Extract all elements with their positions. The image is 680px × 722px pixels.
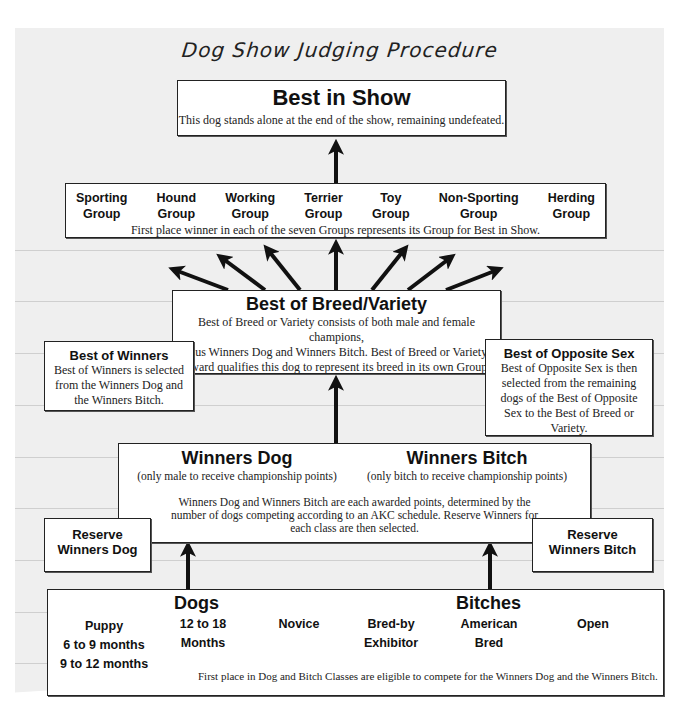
group-toy: ToyGroup [372, 190, 410, 222]
reserve-winners-bitch-box: Reserve Winners Bitch [532, 518, 653, 572]
best-of-opposite-sex-heading: Best of Opposite Sex [486, 346, 652, 361]
group-hound: HoundGroup [157, 190, 197, 222]
best-of-winners-line: the Winners Bitch. [45, 393, 193, 408]
diagram-title: Dog Show Judging Procedure [0, 38, 680, 62]
group-non-sporting: Non-SportingGroup [439, 190, 519, 222]
class-novice: Novice [264, 615, 334, 634]
winners-dog-section: Winners Dog (only male to receive champi… [127, 448, 347, 484]
class-open: Open [563, 615, 623, 634]
bitches-heading: Bitches [456, 593, 521, 614]
groups-box: SportingGroup HoundGroup WorkingGroup Te… [65, 183, 606, 238]
winners-dog-note: (only male to receive championship point… [127, 469, 347, 484]
best-of-winners-line: Best of Winners is selected [45, 363, 193, 378]
best-of-winners-line: from the Winners Dog and [45, 378, 193, 393]
bos-line: Best of Opposite Sex is then [486, 361, 652, 376]
reserve-dog-line: Winners Dog [45, 542, 150, 557]
reserve-dog-line: Reserve [45, 527, 150, 542]
best-of-winners-heading: Best of Winners [45, 348, 193, 363]
best-of-breed-line: Award qualifies this dog to represent it… [173, 360, 500, 375]
reserve-winners-dog-box: Reserve Winners Dog [44, 518, 151, 572]
group-herding: HerdingGroup [548, 190, 595, 222]
group-working: WorkingGroup [225, 190, 275, 222]
class-12-to-18-months: 12 to 18Months [178, 615, 228, 653]
best-of-breed-heading: Best of Breed/Variety [173, 294, 500, 315]
winners-bitch-heading: Winners Bitch [351, 448, 583, 469]
dogs-heading: Dogs [174, 593, 219, 614]
group-sporting: SportingGroup [76, 190, 127, 222]
best-in-show-description: This dog stands alone at the end of the … [178, 113, 505, 128]
groups-description: First place winner in each of the seven … [66, 223, 605, 238]
classes-description: First place in Dog and Bitch Classes are… [198, 669, 658, 684]
bos-line: Variety. [486, 421, 652, 436]
best-in-show-box: Best in Show This dog stands alone at th… [177, 80, 506, 136]
bos-line: dogs of the Best of Opposite [486, 391, 652, 406]
winners-bitch-section: Winners Bitch (only bitch to receive cha… [351, 448, 583, 484]
class-bred-by-exhibitor: Bred-byExhibitor [351, 615, 431, 653]
group-terrier: TerrierGroup [304, 190, 343, 222]
reserve-bitch-line: Reserve [533, 527, 652, 542]
best-of-breed-line: Best of Breed or Variety consists of bot… [173, 315, 500, 345]
best-of-breed-line: plus Winners Dog and Winners Bitch. Best… [173, 345, 500, 360]
winners-description: Winners Dog and Winners Bitch are each a… [119, 496, 590, 535]
best-in-show-heading: Best in Show [178, 85, 505, 111]
bos-line: selected from the remaining [486, 376, 652, 391]
group-list: SportingGroup HoundGroup WorkingGroup Te… [66, 184, 605, 222]
class-puppy: Puppy6 to 9 months9 to 12 months [54, 617, 154, 674]
winners-bitch-note: (only bitch to receive championship poin… [351, 469, 583, 484]
class-american-bred: AmericanBred [449, 615, 529, 653]
bos-line: Sex to the Best of Breed or [486, 406, 652, 421]
ruled-line [15, 250, 664, 251]
winners-box: Winners Dog (only male to receive champi… [118, 443, 591, 543]
best-of-winners-box: Best of Winners Best of Winners is selec… [44, 341, 194, 411]
classes-box: Dogs Bitches Puppy6 to 9 months9 to 12 m… [47, 589, 664, 696]
winners-dog-heading: Winners Dog [127, 448, 347, 469]
best-of-opposite-sex-box: Best of Opposite Sex Best of Opposite Se… [485, 339, 653, 436]
best-of-breed-box: Best of Breed/Variety Best of Breed or V… [172, 290, 501, 374]
reserve-bitch-line: Winners Bitch [533, 542, 652, 557]
